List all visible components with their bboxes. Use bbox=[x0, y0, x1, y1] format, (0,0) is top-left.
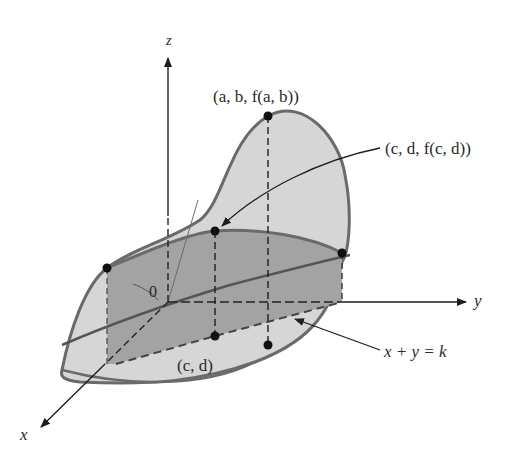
surface-diagram: z y x 0 (a, b, f(a, b)) (c, d, f(c, d)) … bbox=[0, 0, 524, 453]
left-endpoint bbox=[103, 264, 112, 273]
origin-label: 0 bbox=[149, 283, 157, 300]
domain-point-cd bbox=[211, 332, 220, 341]
domain-point-ab bbox=[264, 341, 273, 350]
domain-point-label: (c, d) bbox=[177, 356, 213, 375]
max-point-label: (a, b, f(a, b)) bbox=[213, 87, 299, 106]
right-endpoint bbox=[338, 249, 347, 258]
line-equation-label: x + y = k bbox=[383, 342, 447, 361]
x-axis-label: x bbox=[19, 425, 28, 444]
curve-point-label: (c, d, f(c, d)) bbox=[385, 139, 471, 158]
z-axis-label: z bbox=[165, 33, 172, 48]
line-eq-leader bbox=[295, 319, 380, 350]
curve-point bbox=[211, 227, 220, 236]
max-point bbox=[264, 112, 273, 121]
y-axis-label: y bbox=[472, 291, 482, 310]
